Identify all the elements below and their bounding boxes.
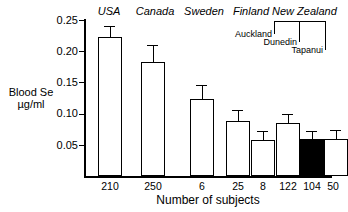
error-bar-stem-auckland-122 xyxy=(288,114,289,123)
error-bar-cap-auckland-122 xyxy=(282,114,293,115)
error-bar-stem-usa-210 xyxy=(110,26,111,37)
group-label-usa: USA xyxy=(86,6,132,17)
y-tick-label-0.05: 0.05 xyxy=(44,140,78,151)
error-bar-cap-tapanui-50 xyxy=(330,130,341,131)
x-axis-line xyxy=(84,176,332,178)
bar-dunedin-104[interactable] xyxy=(300,139,324,176)
y-tick-label-0.15: 0.15 xyxy=(44,77,78,88)
error-bar-cap-sweden-6 xyxy=(196,85,207,86)
y-axis-title: Blood Se µg/ml xyxy=(2,86,60,110)
bar-finland-8[interactable] xyxy=(251,140,275,176)
bar-finland-25[interactable] xyxy=(226,121,250,176)
x-tick-label-50: 50 xyxy=(321,181,345,192)
x-tick-label-250: 250 xyxy=(139,181,167,192)
x-tick-label-8: 8 xyxy=(249,181,277,192)
bracket-drop-tapanui xyxy=(325,21,326,50)
x-tick-label-25: 25 xyxy=(224,181,252,192)
error-bar-stem-finland-8 xyxy=(263,131,264,140)
error-bar-cap-canada-250 xyxy=(147,45,158,46)
bar-sweden-6[interactable] xyxy=(190,99,214,176)
group-label-sweden: Sweden xyxy=(178,6,230,17)
x-tick-label-6: 6 xyxy=(188,181,216,192)
error-bar-cap-dunedin-104 xyxy=(306,131,317,132)
error-bar-stem-sweden-6 xyxy=(202,85,203,99)
site-label-tapanui: Tapanui xyxy=(286,46,323,55)
x-axis-title: Number of subjects xyxy=(84,194,332,207)
bracket-drop-dunedin xyxy=(299,21,300,42)
bar-auckland-122[interactable] xyxy=(276,123,300,176)
group-label-canada: Canada xyxy=(129,6,181,17)
bar-tapanui-50[interactable] xyxy=(324,139,348,176)
error-bar-cap-finland-25 xyxy=(232,110,243,111)
error-bar-stem-dunedin-104 xyxy=(312,131,313,140)
error-bar-stem-canada-250 xyxy=(153,45,154,62)
y-tick-label-0.25: 0.25 xyxy=(44,15,78,26)
y-tick-label-0.20: 0.20 xyxy=(44,46,78,57)
group-label-finland: Finland xyxy=(226,6,276,17)
bar-usa-210[interactable] xyxy=(98,37,122,176)
group-label-new-zealand: New Zealand xyxy=(272,6,334,17)
error-bar-cap-finland-8 xyxy=(257,131,268,132)
error-bar-stem-finland-25 xyxy=(238,110,239,121)
bar-canada-250[interactable] xyxy=(141,62,165,176)
error-bar-stem-tapanui-50 xyxy=(336,130,337,139)
y-tick-label-0.10: 0.10 xyxy=(44,108,78,119)
x-tick-label-210: 210 xyxy=(96,181,124,192)
error-bar-cap-usa-210 xyxy=(104,26,115,27)
y-axis-line xyxy=(84,19,86,177)
bracket-drop-auckland xyxy=(274,21,275,34)
